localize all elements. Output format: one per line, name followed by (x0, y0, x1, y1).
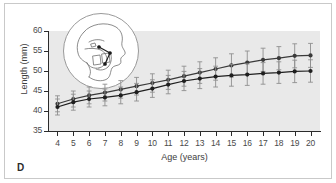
x-tick-label: 14 (208, 138, 224, 148)
x-tick-label: 18 (271, 138, 287, 148)
y-tick (44, 31, 49, 32)
x-tick (57, 132, 58, 136)
x-tick (263, 132, 264, 136)
x-tick (168, 132, 169, 136)
x-tick-label: 8 (113, 138, 129, 148)
figure-panel-d: 354045505560 456789101112131415161718192… (0, 0, 336, 183)
x-tick-label: 20 (303, 138, 319, 148)
x-tick (295, 132, 296, 136)
y-tick (44, 51, 49, 52)
x-tick-label: 19 (287, 138, 303, 148)
y-axis-title: Length (mm) (19, 24, 29, 114)
x-tick-label: 6 (81, 138, 97, 148)
x-tick (121, 132, 122, 136)
x-tick-label: 10 (144, 138, 160, 148)
x-tick (279, 132, 280, 136)
cephalometric-tracing-icon (62, 12, 140, 90)
y-tick (44, 91, 49, 92)
x-tick (216, 132, 217, 136)
y-tick (44, 111, 49, 112)
x-tick-label: 11 (160, 138, 176, 148)
x-tick (200, 132, 201, 136)
x-tick-label: 15 (223, 138, 239, 148)
x-tick-label: 4 (49, 138, 65, 148)
x-tick-label: 16 (239, 138, 255, 148)
x-axis-title: Age (years) (48, 152, 321, 162)
y-tick (44, 131, 49, 132)
x-tick-label: 17 (255, 138, 271, 148)
x-tick (73, 132, 74, 136)
x-tick (247, 132, 248, 136)
y-tick-label: 35 (15, 125, 42, 135)
x-tick (89, 132, 90, 136)
x-tick (231, 132, 232, 136)
x-tick-label: 13 (192, 138, 208, 148)
x-tick-label: 9 (129, 138, 145, 148)
x-tick-label: 12 (176, 138, 192, 148)
panel-label: D (17, 162, 24, 173)
x-tick-label: 5 (65, 138, 81, 148)
x-tick (137, 132, 138, 136)
x-tick (105, 132, 106, 136)
figure-frame: 354045505560 456789101112131415161718192… (4, 3, 332, 179)
x-tick (184, 132, 185, 136)
x-tick (152, 132, 153, 136)
y-axis-line (48, 31, 49, 132)
y-tick (44, 71, 49, 72)
x-tick (311, 132, 312, 136)
x-tick-label: 7 (97, 138, 113, 148)
